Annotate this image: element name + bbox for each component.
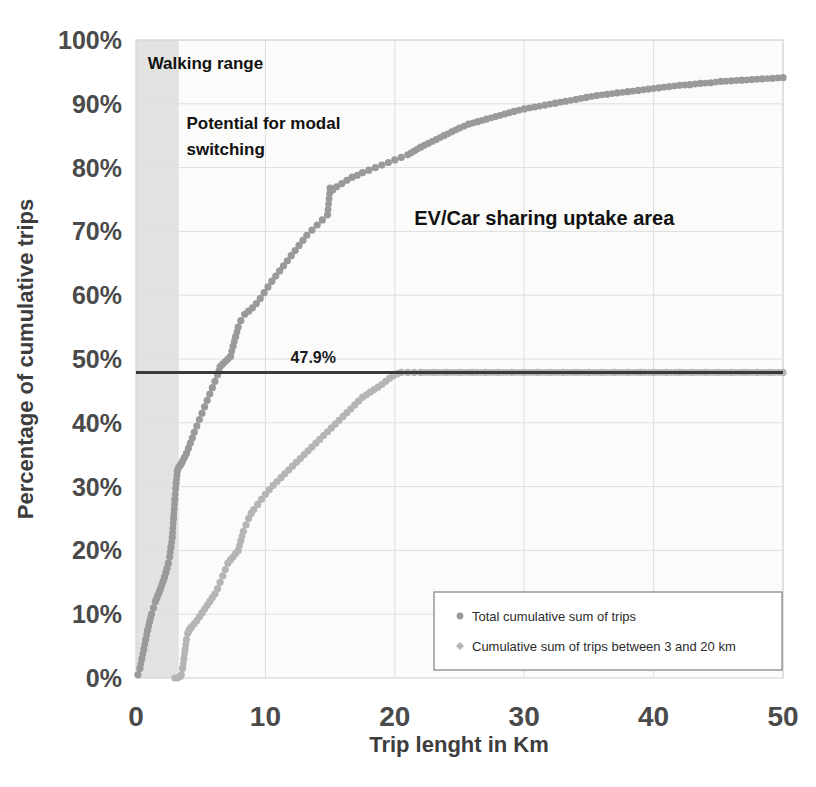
y-tick-label: 90% bbox=[72, 90, 122, 118]
x-tick-label: 40 bbox=[638, 701, 669, 732]
y-tick-label: 30% bbox=[72, 473, 122, 501]
y-tick-label: 80% bbox=[72, 154, 122, 182]
data-point bbox=[211, 378, 218, 385]
legend-label-total: Total cumulative sum of trips bbox=[472, 609, 637, 624]
data-point bbox=[378, 161, 385, 168]
legend-marker-round-dot-icon bbox=[457, 613, 464, 620]
data-point bbox=[314, 221, 321, 228]
data-point bbox=[214, 585, 221, 592]
data-point bbox=[372, 164, 379, 171]
legend-item-between[interactable]: Cumulative sum of trips between 3 and 20… bbox=[456, 639, 736, 654]
y-tick-label: 40% bbox=[72, 409, 122, 437]
annotation-walking-range: Walking range bbox=[148, 54, 264, 73]
data-point bbox=[148, 611, 155, 618]
y-tick-label: 20% bbox=[72, 536, 122, 564]
data-point bbox=[193, 422, 200, 429]
data-point bbox=[209, 384, 216, 391]
data-point bbox=[196, 416, 203, 423]
data-point bbox=[165, 560, 172, 567]
data-point bbox=[183, 636, 190, 643]
data-point bbox=[398, 154, 405, 161]
legend-item-total[interactable]: Total cumulative sum of trips bbox=[457, 609, 637, 624]
y-axis-title: Percentage of cumulative trips bbox=[13, 199, 38, 519]
data-point bbox=[134, 671, 141, 678]
legend-box bbox=[434, 592, 782, 670]
data-point bbox=[206, 390, 213, 397]
y-tick-label: 10% bbox=[72, 600, 122, 628]
annotation-potential-modal-switching-line2: switching bbox=[186, 140, 264, 159]
data-point bbox=[385, 159, 392, 166]
x-tick-label: 10 bbox=[250, 701, 281, 732]
chart-container: 47.9% 0%10%20%30%40%50%60%70%80%90%100% … bbox=[0, 0, 816, 787]
y-tick-label: 50% bbox=[72, 345, 122, 373]
x-axis-title: Trip lenght in Km bbox=[369, 732, 549, 757]
data-point bbox=[219, 572, 226, 579]
data-point bbox=[240, 528, 247, 535]
data-point bbox=[204, 397, 211, 404]
annotation-potential-modal-switching-line1: Potential for modal bbox=[186, 114, 340, 133]
y-tick-label: 70% bbox=[72, 217, 122, 245]
y-tick-label: 100% bbox=[58, 26, 122, 54]
annotation-ev-car-sharing-uptake: EV/Car sharing uptake area bbox=[414, 207, 675, 229]
data-point bbox=[217, 579, 224, 586]
data-point bbox=[237, 317, 244, 324]
data-point bbox=[242, 521, 249, 528]
legend-label-between: Cumulative sum of trips between 3 and 20… bbox=[472, 639, 736, 654]
data-point bbox=[201, 403, 208, 410]
x-tick-label: 0 bbox=[128, 701, 144, 732]
data-point bbox=[303, 232, 310, 239]
data-point bbox=[178, 671, 185, 678]
y-tick-label: 60% bbox=[72, 281, 122, 309]
data-point bbox=[150, 604, 157, 611]
data-point bbox=[191, 429, 198, 436]
data-point bbox=[308, 227, 315, 234]
chart-legend: Total cumulative sum of trips Cumulative… bbox=[434, 592, 782, 670]
reference-line-label: 47.9% bbox=[291, 349, 336, 366]
data-point bbox=[365, 167, 372, 174]
data-point bbox=[235, 324, 242, 331]
cumulative-trips-chart: 47.9% 0%10%20%30%40%50%60%70%80%90%100% … bbox=[0, 0, 816, 787]
data-point bbox=[319, 216, 326, 223]
x-tick-label: 20 bbox=[379, 701, 410, 732]
data-point bbox=[198, 410, 205, 417]
data-point bbox=[222, 566, 229, 573]
data-point bbox=[391, 156, 398, 163]
x-tick-label: 50 bbox=[767, 701, 798, 732]
data-point bbox=[359, 169, 366, 176]
y-tick-label: 0% bbox=[86, 664, 122, 692]
data-point bbox=[779, 74, 786, 81]
x-tick-label: 30 bbox=[509, 701, 540, 732]
